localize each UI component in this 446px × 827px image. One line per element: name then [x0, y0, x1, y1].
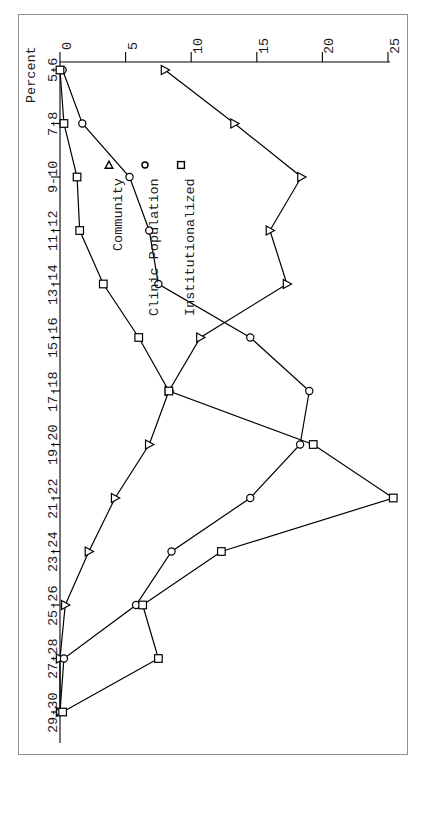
triangle-marker — [85, 547, 93, 556]
plot-canvas — [18, 14, 408, 755]
category-tick-label: 7-8 — [46, 111, 61, 135]
category-tick-label: 23-24 — [46, 531, 61, 572]
category-tick-label: 13-14 — [46, 264, 61, 305]
circle-marker — [306, 387, 313, 394]
triangle-marker — [197, 333, 205, 342]
value-axis-title: Percent — [24, 46, 39, 103]
triangle-marker — [111, 493, 119, 502]
circle-marker — [168, 548, 175, 555]
triangle-marker — [298, 172, 306, 181]
circle-marker — [126, 173, 133, 180]
square-marker — [155, 655, 163, 663]
triangle-marker — [283, 279, 291, 288]
legend-label: Community — [111, 178, 126, 251]
square-marker — [60, 120, 68, 128]
category-tick-label: 17-18 — [46, 371, 61, 412]
category-tick-label: 21-22 — [46, 478, 61, 519]
square-marker — [389, 494, 397, 502]
square-marker — [139, 601, 147, 609]
value-tick-label: 20 — [322, 38, 337, 54]
triangle-marker — [62, 600, 70, 609]
legend-triangle-marker — [104, 160, 113, 169]
square-marker — [73, 173, 81, 181]
circle-marker — [79, 120, 86, 127]
category-tick-label: 27-28 — [46, 638, 61, 679]
category-tick-label: 29-30 — [46, 692, 61, 733]
circle-marker — [247, 334, 254, 341]
value-tick-label: 5 — [126, 42, 141, 50]
circle-marker — [60, 655, 67, 662]
legend-circle-marker — [140, 160, 149, 169]
category-tick-label: 25-26 — [46, 585, 61, 626]
circle-marker — [296, 441, 303, 448]
square-marker — [165, 387, 173, 395]
legend-square-marker — [176, 160, 185, 169]
category-tick-label: 15-16 — [46, 317, 61, 358]
square-marker — [76, 227, 84, 235]
plot-area — [18, 14, 408, 755]
category-tick-label: 11-12 — [46, 210, 61, 251]
value-tick-label: 0 — [60, 42, 75, 50]
value-tick-label: 25 — [388, 38, 403, 54]
legend-label: Clinic Population — [147, 178, 162, 316]
legend-label: Institutionalized — [183, 178, 198, 316]
square-marker — [309, 441, 317, 449]
plot-stage — [18, 14, 408, 755]
square-marker — [218, 548, 226, 556]
square-marker — [99, 280, 107, 288]
category-tick-label: 19-20 — [46, 424, 61, 465]
circle-marker — [247, 494, 254, 501]
category-tick-label: 5-6 — [46, 58, 61, 82]
square-marker — [135, 334, 143, 342]
value-tick-label: 15 — [257, 38, 272, 54]
figure-root: 5-67-89-1011-1213-1415-1617-1819-2021-22… — [0, 0, 446, 827]
triangle-marker — [146, 440, 154, 449]
value-tick-label: 10 — [191, 38, 206, 54]
category-tick-label: 9-10 — [46, 161, 61, 193]
